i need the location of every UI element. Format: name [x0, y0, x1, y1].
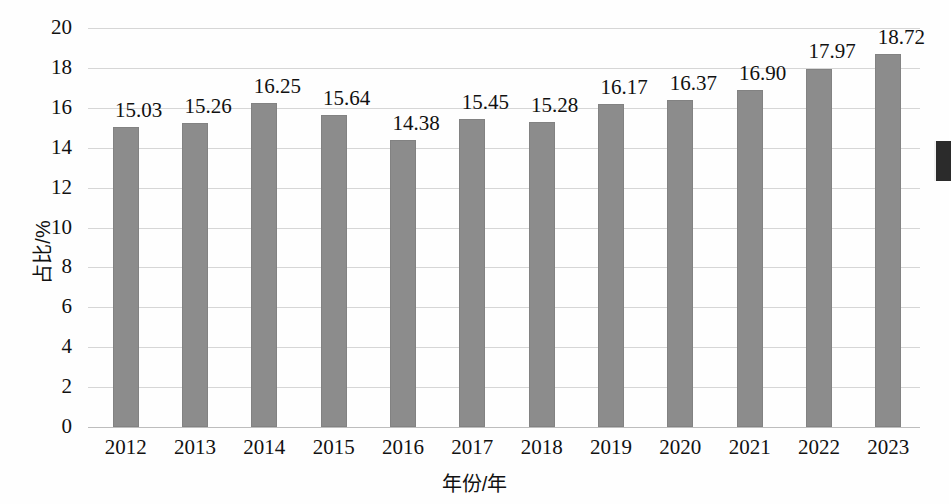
y-tick-label: 16 [0, 97, 80, 118]
y-tick-label: 4 [0, 336, 80, 357]
y-tick-label: 20 [0, 17, 80, 38]
y-tick-label: 8 [0, 256, 80, 277]
bar[interactable] [251, 103, 277, 427]
x-tick-label: 2013 [155, 437, 235, 458]
y-tick-label: 12 [0, 177, 80, 198]
bar-value-label: 18.72 [861, 27, 941, 48]
bar[interactable] [182, 123, 208, 427]
y-tick-label: 6 [0, 296, 80, 317]
bar-value-label: 15.03 [99, 100, 179, 121]
bar-value-label: 16.25 [237, 76, 317, 97]
x-tick-label: 2017 [432, 437, 512, 458]
bar-value-label: 16.90 [723, 63, 803, 84]
x-tick-label: 2020 [640, 437, 720, 458]
x-tick-label: 2015 [294, 437, 374, 458]
gridline [88, 28, 920, 29]
bar[interactable] [529, 122, 555, 427]
x-tick-label: 2019 [571, 437, 651, 458]
gridline [88, 188, 920, 189]
y-axis-tick-labels: 02468101214161820 [0, 0, 80, 504]
plot-area: 15.0315.2616.2515.6414.3815.4515.2816.17… [88, 28, 920, 427]
bar[interactable] [667, 100, 693, 427]
bar-value-label: 16.37 [653, 73, 733, 94]
x-tick-label: 2021 [710, 437, 790, 458]
bar-value-label: 15.28 [515, 95, 595, 116]
bar[interactable] [321, 115, 347, 427]
bar-value-label: 16.17 [584, 77, 664, 98]
x-tick-label: 2018 [502, 437, 582, 458]
bar[interactable] [113, 127, 139, 427]
y-tick-label: 14 [0, 137, 80, 158]
gridline [88, 347, 920, 348]
x-tick-label: 2016 [363, 437, 443, 458]
gridline [88, 267, 920, 268]
page-edge-artifact [934, 141, 951, 181]
x-tick-label: 2022 [779, 437, 859, 458]
y-tick-label: 2 [0, 376, 80, 397]
bar[interactable] [390, 140, 416, 427]
gridline [88, 148, 920, 149]
x-axis-title: 年份/年 [0, 468, 949, 497]
y-tick-label: 10 [0, 217, 80, 238]
x-tick-label: 2012 [86, 437, 166, 458]
bar[interactable] [806, 69, 832, 428]
x-tick-label: 2014 [224, 437, 304, 458]
bar-value-label: 15.64 [307, 88, 387, 109]
bar[interactable] [598, 104, 624, 427]
x-tick-label: 2023 [848, 437, 928, 458]
gridline [88, 228, 920, 229]
gridline [88, 387, 920, 388]
bar-value-label: 17.97 [792, 41, 872, 62]
y-tick-label: 18 [0, 57, 80, 78]
gridline [88, 307, 920, 308]
bar[interactable] [875, 54, 901, 427]
bar[interactable] [737, 90, 763, 427]
bar-value-label: 15.45 [445, 92, 525, 113]
y-tick-label: 0 [0, 416, 80, 437]
bar-value-label: 14.38 [376, 113, 456, 134]
bar-value-label: 15.26 [168, 96, 248, 117]
gridline [88, 427, 920, 428]
bar[interactable] [459, 119, 485, 427]
